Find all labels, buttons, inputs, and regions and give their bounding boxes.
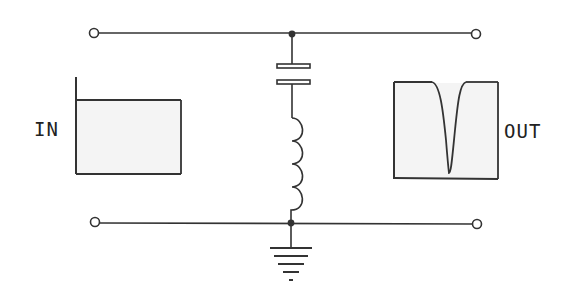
ground-icon [270, 223, 312, 280]
output-waveform [394, 82, 498, 179]
terminal-in-bottom [91, 218, 100, 227]
terminal-out-bottom [473, 220, 482, 229]
input-label: IN [34, 118, 59, 140]
bottom-wire [99, 223, 473, 224]
capacitor-icon [277, 34, 310, 118]
input-waveform [76, 77, 181, 174]
notch-filter-schematic [0, 0, 573, 298]
terminal-in-top [90, 29, 99, 38]
output-label: OUT [504, 120, 541, 142]
inductor-icon [291, 118, 303, 223]
terminal-out-top [472, 30, 481, 39]
